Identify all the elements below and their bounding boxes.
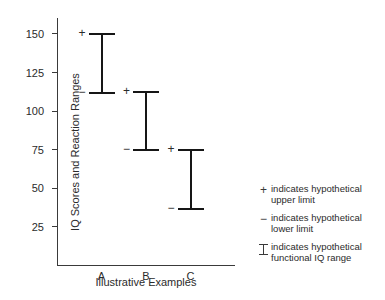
range-lower-cap <box>178 208 204 210</box>
y-axis-title: IQ Scores and Reaction Ranges <box>69 62 81 242</box>
legend-label: indicates hypothetical functional IQ ran… <box>271 241 385 263</box>
lower-limit-marker: − <box>167 204 174 212</box>
y-tick: 50 <box>52 188 57 189</box>
y-tick-label: 125 <box>26 67 44 78</box>
y-tick: 75 <box>52 149 57 150</box>
upper-limit-marker: + <box>167 145 174 153</box>
y-tick-label: 150 <box>26 28 44 39</box>
legend-item: −indicates hypothetical lower limit <box>258 212 385 234</box>
legend-label: indicates hypothetical upper limit <box>271 183 385 205</box>
plot-area: 150125100755025 +−+−+− ABC IQ Scores and… <box>57 18 235 266</box>
legend-item: +indicates hypothetical upper limit <box>258 183 385 205</box>
ibeam-shape <box>259 244 268 255</box>
y-tick: 100 <box>52 111 57 112</box>
range-stem <box>101 33 103 92</box>
range-stem <box>145 91 147 149</box>
x-axis-line <box>57 265 235 266</box>
chart-legend: +indicates hypothetical upper limit−indi… <box>258 183 385 270</box>
upper-limit-marker: + <box>123 87 130 95</box>
range-lower-cap <box>133 149 159 151</box>
upper-limit-marker: + <box>78 29 85 37</box>
y-tick-label: 100 <box>26 106 44 117</box>
plus-marker-icon: + <box>258 184 269 196</box>
range-stem <box>190 149 192 208</box>
y-tick-label: 75 <box>32 144 44 155</box>
y-tick: 125 <box>52 72 57 73</box>
y-tick-label: 25 <box>32 221 44 232</box>
ibeam-marker-icon <box>258 244 269 257</box>
y-axis-line <box>57 18 58 266</box>
chart-figure: 150125100755025 +−+−+− ABC IQ Scores and… <box>0 0 385 300</box>
lower-limit-marker: − <box>123 145 130 153</box>
legend-label: indicates hypothetical lower limit <box>271 212 385 234</box>
x-axis-title: Illustrative Examples <box>57 276 235 288</box>
y-tick: 150 <box>52 33 57 34</box>
y-tick-label: 50 <box>32 183 44 194</box>
y-tick: 25 <box>52 226 57 227</box>
legend-item: indicates hypothetical functional IQ ran… <box>258 241 385 263</box>
minus-marker-icon: − <box>258 213 269 225</box>
range-lower-cap <box>89 92 115 94</box>
